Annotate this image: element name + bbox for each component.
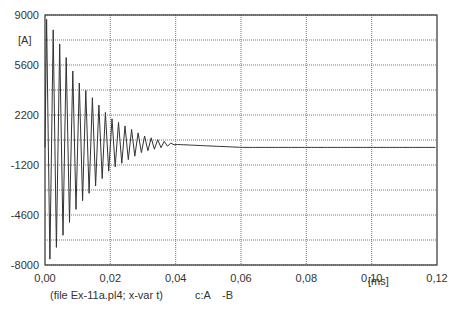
legend-b-label: -B [222,289,233,301]
x-tick-label: 0,00 [34,272,55,284]
x-tick-label: 0,06 [230,272,251,284]
y-tick-label: -1200 [11,159,39,171]
x-tick-label: 0,08 [296,272,317,284]
y-tick-label: 2200 [15,109,39,121]
x-tick-label: 0,12 [426,272,447,284]
y-tick-label: 9000 [15,9,39,21]
y-tick-label: 5600 [15,59,39,71]
x-unit-label: [ms] [368,275,389,287]
y-axis-ticks: 900056002200-1200-4600-8000 [11,9,39,271]
x-tick-label: 0,02 [100,272,121,284]
current-waveform [45,19,435,259]
y-tick-label: -4600 [11,209,39,221]
legend-c-label: c:A [195,289,212,301]
x-tick-label: 0,04 [165,272,186,284]
file-caption: (file Ex-11a.pl4; x-var t) [50,289,163,301]
y-unit-label: [A] [18,34,31,46]
plot: 900056002200-1200-4600-8000 0,000,020,04… [0,0,451,310]
y-tick-label: -8000 [11,259,39,271]
